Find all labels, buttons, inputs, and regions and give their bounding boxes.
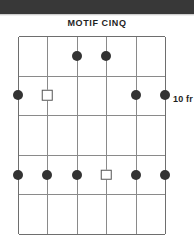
marker-s2-f2: [42, 90, 53, 101]
scan-top-band: [0, 0, 194, 14]
marker-s2-f4: [42, 170, 52, 180]
marker-s4-f1: [101, 51, 111, 61]
marker-s6-f2: [160, 90, 170, 100]
fret-position-label: 10 fr: [173, 94, 193, 104]
marker-s5-f2: [131, 90, 141, 100]
marker-s1-f2: [13, 90, 23, 100]
marker-s3-f4: [72, 170, 82, 180]
marker-s6-f4: [160, 170, 170, 180]
marker-s5-f4: [131, 170, 141, 180]
page-title: MOTIF CINQ: [0, 18, 194, 28]
marker-s4-f4: [101, 169, 112, 180]
marker-s1-f4: [13, 170, 23, 180]
scan-band-shadow: [0, 14, 194, 16]
marker-s3-f1: [72, 51, 82, 61]
diagram-page: MOTIF CINQ 10 fr: [0, 0, 194, 245]
fretboard-grid: [18, 36, 165, 234]
fretboard-diagram: [18, 36, 165, 234]
